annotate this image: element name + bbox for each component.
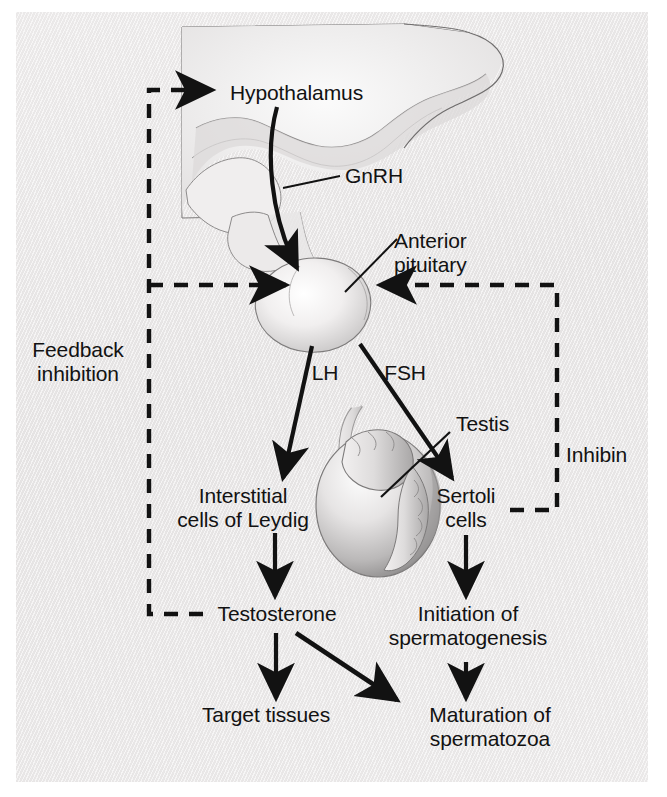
label-feedback-inhibition-line2: inhibition [37,362,119,386]
label-testis: Testis [456,412,509,436]
label-sertoli-cells-line2: cells [445,508,487,532]
label-interstitial-cells-line2: cells of Leydig [177,508,309,532]
label-target-tissues: Target tissues [202,703,330,727]
label-testosterone: Testosterone [217,602,336,626]
label-lh: LH [312,361,339,385]
figure-panel [16,12,648,782]
label-fsh: FSH [384,361,426,385]
label-maturation-line2: spermatozoa [430,727,550,751]
label-anterior-pituitary-line2: pituitary [394,253,467,277]
label-inhibin: Inhibin [566,443,627,467]
label-maturation-line1: Maturation of [429,703,550,727]
label-gnrh: GnRH [345,164,403,188]
label-initiation-line1: Initiation of [418,602,518,626]
label-feedback-inhibition-line1: Feedback [32,338,123,362]
label-hypothalamus: Hypothalamus [230,81,363,105]
label-interstitial-cells-line1: Interstitial [199,484,288,508]
label-initiation-line2: spermatogenesis [389,626,547,650]
label-sertoli-cells-line1: Sertoli [437,484,496,508]
label-anterior-pituitary-line1: Anterior [394,229,467,253]
figure-canvas: Hypothalamus GnRH Anterior pituitary Fee… [0,0,667,797]
